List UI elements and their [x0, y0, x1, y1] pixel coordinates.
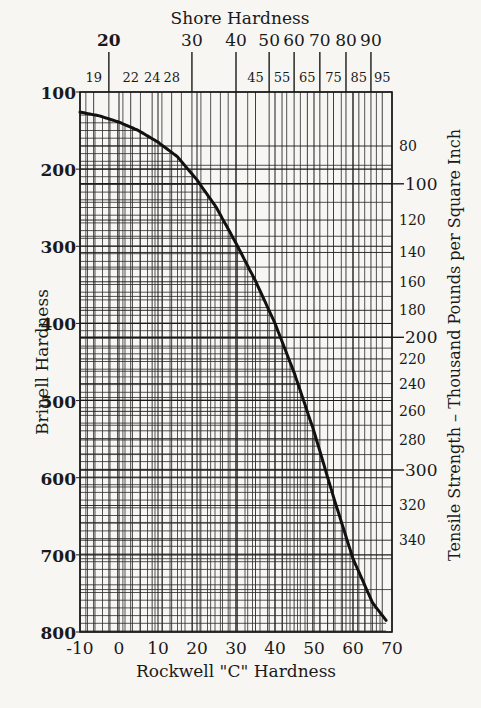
brinell-tick-label: 600	[41, 469, 77, 489]
shore-minor-label: 22	[122, 70, 139, 85]
shore-minor-label: 24	[144, 70, 161, 85]
tensile-major-label: 100	[405, 174, 437, 194]
shore-minor-label: 95	[374, 70, 391, 85]
rockwell-tick-label: 0	[114, 638, 125, 658]
conversion-curve	[80, 112, 386, 620]
rockwell-tick-label: -10	[66, 638, 93, 658]
brinell-tick-label: 100	[41, 83, 77, 103]
tensile-minor-label: 140	[399, 244, 426, 260]
shore-minor-label: 85	[351, 70, 368, 85]
shore-minor-label: 75	[325, 70, 342, 85]
brinell-tick-label: 200	[41, 160, 77, 180]
tensile-major-label: 200	[405, 327, 437, 347]
brinell-tick-label: 700	[41, 546, 77, 566]
top-axis-title: Shore Hardness	[171, 8, 310, 28]
y-axis-title: Brinell Hardness	[32, 289, 52, 435]
rockwell-tick-label: 10	[147, 638, 169, 658]
x-axis-title: Rockwell "C" Hardness	[136, 661, 336, 681]
rockwell-tick-label: 20	[186, 638, 208, 658]
tensile-minor-label: 120	[399, 212, 426, 228]
shore-minor-label: 65	[299, 70, 316, 85]
shore-minor-label: 28	[163, 70, 180, 85]
shore-major-label: 80	[335, 30, 357, 50]
rockwell-tick-label: 50	[303, 638, 325, 658]
coarse-grid	[80, 92, 392, 632]
shore-major-label: 50	[258, 30, 280, 50]
brinell-rockwell-curve	[80, 112, 386, 620]
shore-major-label: 90	[360, 30, 382, 50]
shore-major-label: 40	[225, 30, 247, 50]
tensile-minor-label: 80	[399, 138, 417, 154]
tensile-minor-label: 280	[399, 432, 426, 448]
shore-minor-label: 55	[274, 70, 291, 85]
rockwell-tick-label: 40	[264, 638, 286, 658]
tensile-major-label: 300	[405, 460, 437, 480]
shore-minor-label: 45	[247, 70, 264, 85]
tensile-minor-label: 160	[399, 274, 426, 290]
tensile-minor-label: 220	[399, 351, 426, 367]
rockwell-tick-label: 30	[225, 638, 247, 658]
tensile-minor-label: 240	[399, 376, 426, 392]
tensile-minor-label: 340	[399, 532, 426, 548]
hardness-conversion-chart: 100200300400500600700800-100102030405060…	[0, 0, 481, 708]
tensile-minor-label: 260	[399, 403, 426, 419]
right-axis-title: Tensile Strength – Thousand Pounds per S…	[445, 129, 464, 561]
rockwell-tick-label: 70	[381, 638, 403, 658]
shore-minor-label: 19	[85, 70, 102, 85]
brinell-tick-label: 300	[41, 237, 77, 257]
shore-major-label: 60	[283, 30, 305, 50]
rockwell-tick-label: 60	[342, 638, 364, 658]
tensile-minor-label: 320	[399, 497, 426, 513]
shore-major-label: 70	[309, 30, 331, 50]
shore-major-label: 20	[97, 30, 121, 50]
shore-major-label: 30	[181, 30, 203, 50]
tensile-minor-label: 180	[399, 302, 426, 318]
